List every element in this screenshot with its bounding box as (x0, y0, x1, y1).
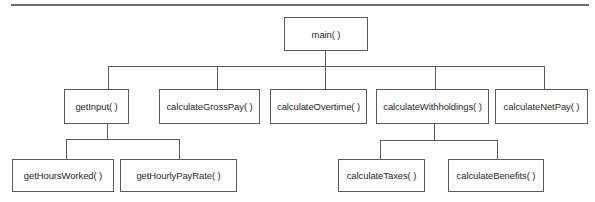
connector-benefits-stem (497, 140, 498, 159)
connector-overtime-stem (325, 66, 326, 89)
node-label: calculateWithholdings( ) (383, 101, 481, 112)
connector-grosspay-stem (217, 66, 218, 89)
top-rule-divider (11, 4, 589, 6)
connector-withholdings-down (434, 124, 435, 140)
node-label: getHourlyPayRate( ) (136, 170, 220, 181)
connector-main-stem (325, 51, 326, 67)
connector-hourlypayrate-stem (179, 139, 180, 159)
node-label: calculateGrossPay( ) (166, 101, 252, 112)
node-calculate-withholdings: calculateWithholdings( ) (376, 89, 489, 124)
connector-getinput-down (107, 124, 108, 139)
hierarchy-chart: main( ) getInput( ) calculateGrossPay( )… (0, 0, 595, 202)
connector-taxes-stem (380, 140, 381, 159)
connector-level2-bus (108, 66, 545, 67)
connector-getinput-stem (108, 66, 109, 89)
node-get-hours-worked: getHoursWorked( ) (12, 159, 114, 192)
node-calculate-taxes: calculateTaxes( ) (338, 159, 425, 192)
node-label: getHoursWorked( ) (24, 170, 102, 181)
connector-withholdings-stem (435, 66, 436, 89)
node-label: calculateBenefits( ) (457, 170, 536, 181)
node-main: main( ) (284, 17, 368, 51)
connector-withholdings-bus (380, 140, 498, 141)
connector-netpay-stem (544, 66, 545, 89)
node-label: calculateTaxes( ) (347, 170, 417, 181)
node-calculate-gross-pay: calculateGrossPay( ) (159, 89, 260, 124)
node-label: calculateNetPay( ) (504, 101, 580, 112)
node-calculate-benefits: calculateBenefits( ) (448, 159, 544, 192)
node-calculate-net-pay: calculateNetPay( ) (495, 89, 588, 124)
connector-hoursworked-stem (66, 139, 67, 159)
node-label: calculateOvertime( ) (277, 101, 360, 112)
node-get-input: getInput( ) (64, 89, 129, 124)
node-label: main( ) (312, 29, 341, 40)
connector-getinput-bus (66, 139, 180, 140)
node-get-hourly-pay-rate: getHourlyPayRate( ) (120, 159, 237, 192)
node-label: getInput( ) (75, 101, 117, 112)
node-calculate-overtime: calculateOvertime( ) (270, 89, 367, 124)
